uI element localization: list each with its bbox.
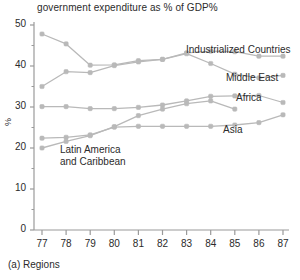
- data-point: [88, 71, 92, 75]
- series-label-3: Asia: [223, 124, 242, 135]
- data-point: [185, 102, 189, 106]
- data-point: [136, 60, 140, 64]
- data-point: [209, 99, 213, 103]
- data-point: [136, 124, 140, 128]
- series-label-4: Latin Americaand Caribbean: [60, 144, 155, 167]
- data-point: [64, 135, 68, 139]
- data-point: [209, 61, 213, 65]
- y-tick-label: 50: [4, 18, 26, 29]
- data-point: [40, 32, 44, 36]
- x-tick-label: 80: [104, 238, 124, 249]
- data-point: [136, 114, 140, 118]
- data-point: [281, 73, 285, 77]
- data-point: [88, 107, 92, 111]
- data-point: [88, 134, 92, 138]
- x-tick-label: 86: [249, 238, 269, 249]
- x-tick-label: 85: [225, 238, 245, 249]
- data-point: [160, 124, 164, 128]
- series-label-1: Middle East: [226, 72, 278, 83]
- data-point: [160, 107, 164, 111]
- figure-caption: (a) Regions: [8, 259, 60, 270]
- y-tick-label: 10: [4, 182, 26, 193]
- data-point: [40, 84, 44, 88]
- data-point: [281, 113, 285, 117]
- data-point: [160, 57, 164, 61]
- series-1: [40, 52, 285, 89]
- x-tick-label: 81: [128, 238, 148, 249]
- x-tick-label: 78: [56, 238, 76, 249]
- data-point: [281, 100, 285, 104]
- series-3: [40, 113, 285, 141]
- data-point: [136, 105, 140, 109]
- data-point: [257, 121, 261, 125]
- series-label-2: Africa: [236, 92, 262, 103]
- data-point: [64, 139, 68, 143]
- figure-region-expenditure-chart: government expenditure as % of GDP% % 01…: [0, 0, 300, 280]
- y-tick-label: 30: [4, 100, 26, 111]
- data-point: [40, 146, 44, 150]
- series-label-line: Latin America: [60, 144, 155, 156]
- data-point: [40, 105, 44, 109]
- data-point: [64, 70, 68, 74]
- data-point: [64, 105, 68, 109]
- x-tick-label: 79: [80, 238, 100, 249]
- data-point: [40, 136, 44, 140]
- data-point: [112, 125, 116, 129]
- y-tick-label: 40: [4, 59, 26, 70]
- data-point: [64, 42, 68, 46]
- x-tick-label: 87: [273, 238, 293, 249]
- x-tick-label: 84: [201, 238, 221, 249]
- data-point: [209, 94, 213, 98]
- data-point: [160, 103, 164, 107]
- x-tick-label: 82: [153, 238, 173, 249]
- data-point: [112, 64, 116, 68]
- data-point: [185, 124, 189, 128]
- data-point: [209, 124, 213, 128]
- x-tick-label: 83: [177, 238, 197, 249]
- y-tick-label: 0: [4, 223, 26, 234]
- series-label-line: and Caribbean: [60, 156, 155, 168]
- series-label-0: Industrialized Countries: [186, 44, 291, 55]
- data-point: [233, 107, 237, 111]
- y-tick-label: 20: [4, 141, 26, 152]
- data-point: [112, 107, 116, 111]
- x-tick-label: 77: [32, 238, 52, 249]
- data-point: [88, 63, 92, 67]
